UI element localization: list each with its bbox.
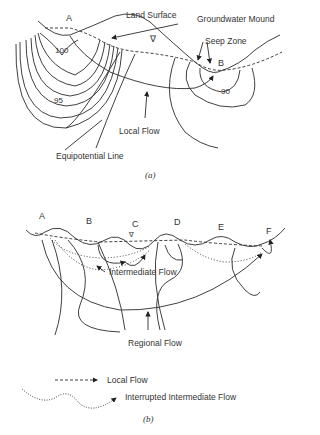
local-flow-line <box>70 36 213 89</box>
caption-b: (b) <box>143 415 154 424</box>
point-label-b-e: E <box>218 223 224 232</box>
point-label-a: A <box>66 14 72 23</box>
intermediate-flow-label: Intermediate Flow <box>109 268 177 277</box>
point-label-b-d: D <box>174 218 181 227</box>
point-label-b-c: C <box>132 220 139 229</box>
point-label-b-a: A <box>39 212 45 221</box>
regional-flow-label: Regional Flow <box>128 339 182 348</box>
seep-zone-label: Seep Zone <box>205 37 247 46</box>
equipotential-line-label: Equipotential Line <box>56 152 124 161</box>
groundwater-mound-label: Groundwater Mound <box>197 15 275 24</box>
caption-a: (a) <box>145 171 156 180</box>
land-surface-label: Land Surface <box>126 11 177 20</box>
legend <box>22 380 116 408</box>
point-label-b-b: B <box>86 217 92 226</box>
figure-b <box>26 228 285 335</box>
contour-label-100: 100 <box>55 47 68 55</box>
point-label-b-f: F <box>266 227 272 236</box>
water-table-symbol-a: ∇ <box>150 35 156 44</box>
contour-label-95: 95 <box>54 97 63 105</box>
contour-label-90: 90 <box>221 88 230 96</box>
legend-local-flow-label: Local Flow <box>107 376 148 385</box>
legend-intermediate-flow-line <box>22 389 116 408</box>
land-surface-b <box>26 228 285 249</box>
water-table-symbol-b: ∇ <box>129 231 134 238</box>
local-flow-label: Local Flow <box>119 127 160 136</box>
legend-intermediate-flow-label: Interrupted Intermediate Flow <box>125 393 236 402</box>
point-label-b: B <box>218 59 224 68</box>
